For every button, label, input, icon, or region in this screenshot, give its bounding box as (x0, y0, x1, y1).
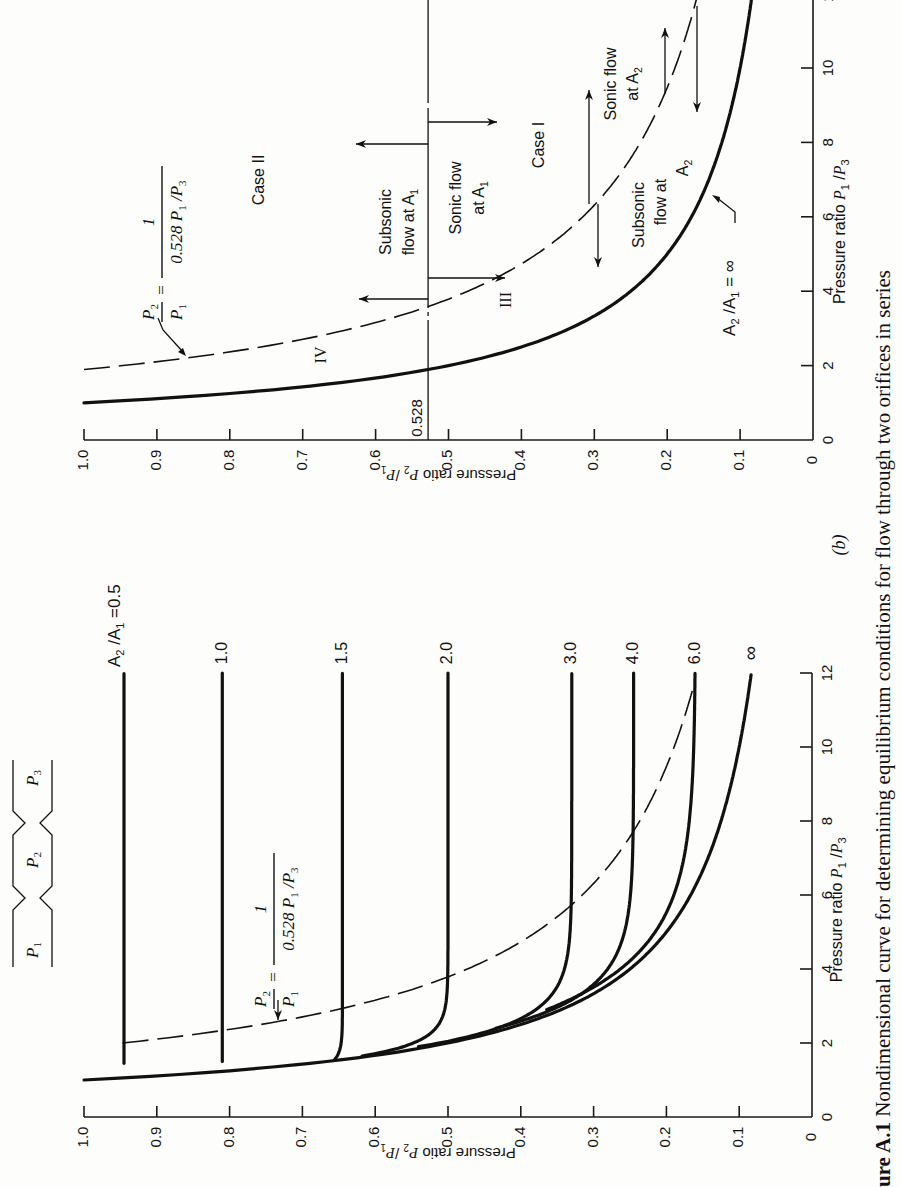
y-tick-label: 0 (803, 456, 820, 464)
x-axis-label: Pressure ratio P1 /P3 (828, 837, 848, 982)
region-label-case-i: Case I (530, 122, 547, 168)
orifice-label-p3: P3 (23, 770, 43, 787)
annotation-sonic-a1-line1: Sonic flow (447, 161, 464, 234)
figure-a1: 00.10.20.30.40.50.60.70.80.91.0024681012… (0, 0, 901, 1187)
svg-text:1: 1 (139, 218, 158, 227)
y-tick-label: 0.3 (584, 450, 601, 471)
svg-text:P2: P2 (139, 304, 160, 321)
svg-text:P2: P2 (251, 991, 272, 1008)
y-tick-label: 0.7 (292, 1127, 309, 1148)
chart-panel-a: 00.10.20.30.40.50.60.70.80.91.0024681012… (74, 584, 848, 1162)
figure-caption: ure A.1 Nondimensional curve for determi… (871, 270, 895, 1187)
orifice-diagram: P1P2P3 (13, 760, 52, 967)
y-tick-label: 0.1 (730, 450, 747, 471)
y-tick-label: 0.2 (656, 1127, 673, 1148)
annotation-subsonic-a2-line2: flow at (652, 178, 669, 225)
series-label: 1.5 (333, 642, 350, 664)
y-tick-label: 1.0 (74, 1127, 91, 1148)
series-label: 3.0 (562, 642, 579, 664)
caption-text: ure A.1 Nondimensional curve for determi… (871, 270, 895, 1187)
y-tick-label: 0.5 (438, 1127, 455, 1148)
x-tick-label: 0 (819, 436, 836, 444)
series-label: ∞ (739, 646, 761, 660)
y-tick-label: 0.6 (366, 450, 383, 471)
svg-text:=: = (264, 972, 283, 982)
y-tick-label: 1.0 (74, 450, 91, 471)
y-tick-label: 0.3 (584, 1127, 601, 1148)
y-tick-label: 0.6 (365, 1127, 382, 1148)
y-tick-label: 0 (802, 1133, 819, 1141)
curve-a2a1-3.0 (419, 674, 572, 1047)
x-tick-label: 8 (819, 138, 836, 146)
panel-label-b: (b) (829, 535, 850, 556)
curve-dashed-critical-a (123, 690, 693, 1043)
y-tick-label: 0.7 (293, 450, 310, 471)
annotation-subsonic-a1-line2: flow at A1 (400, 189, 419, 255)
curve-a2a1-∞ (84, 675, 751, 1080)
reference-label-0528: 0.528 (408, 399, 425, 437)
curve-a2a1-6.0 (547, 673, 695, 1009)
x-tick-label: 2 (818, 1039, 835, 1047)
leader-dashed-b-head (178, 348, 186, 356)
svg-text:1: 1 (251, 905, 270, 914)
svg-text:0.528 P1 /P3: 0.528 P1 /P3 (279, 867, 300, 951)
svg-text:=: = (152, 285, 171, 295)
y-tick-label: 0.8 (220, 450, 237, 471)
x-axis-label: Pressure ratio P1 /P3 (831, 159, 851, 304)
y-tick-label: 0.9 (147, 1127, 164, 1148)
chart-a-axes: 00.10.20.30.40.50.60.70.80.91.0024681012… (74, 665, 848, 1162)
x-tick-label: 2 (819, 361, 836, 369)
region-label-case-ii: Case II (250, 155, 267, 206)
label-dashed-equation-a: P2P1=10.528 P1 /P3 (251, 853, 300, 1009)
curve-a2a1-2.0 (362, 673, 448, 1056)
label-a2a1-infinity: A2 /A1 = ∞ (720, 260, 741, 336)
region-label-iii: III (497, 292, 514, 308)
annotation-subsonic-a1-line1: Subsonic (377, 189, 394, 255)
annotation-subsonic-a2-line3: A2 (674, 160, 693, 177)
annotation-subsonic-a2-line1: Subsonic (630, 182, 647, 248)
x-tick-label: 10 (819, 60, 836, 77)
y-tick-label: 0.4 (511, 1127, 528, 1148)
series-label: 2.0 (438, 642, 455, 664)
y-tick-label: 0.8 (220, 1127, 237, 1148)
series-label: 4.0 (624, 642, 641, 664)
y-tick-label: 0.2 (657, 450, 674, 471)
svg-text:P1: P1 (279, 991, 300, 1008)
orifice-label-p2: P2 (23, 852, 43, 869)
annotation-sonic-a2-line1: Sonic flow (602, 47, 619, 120)
x-tick-label: 12 (819, 0, 836, 2)
annotation-sonic-a1-line2: at A1 (470, 181, 489, 215)
region-label-iv: IV (312, 346, 329, 363)
leader-dashed-b (158, 318, 183, 352)
svg-text:0.528 P1 /P3: 0.528 P1 /P3 (167, 180, 188, 264)
series-label: 1.0 (213, 642, 230, 664)
orifice-label-p1: P1 (23, 942, 43, 959)
y-tick-label: 0.9 (147, 450, 164, 471)
x-tick-label: 8 (818, 817, 835, 825)
chart-b-axes: 00.10.20.30.40.50.60.70.80.91.0024681012… (74, 0, 851, 484)
chart-a-labels: A2 /A1 =0.51.01.52.03.04.06.0∞P2P1=10.52… (105, 584, 761, 1020)
annotation-sonic-a2-line2: at A2 (624, 67, 643, 101)
x-tick-label: 10 (818, 739, 835, 756)
curve-a2a1-1.5 (335, 673, 343, 1059)
svg-text:P1: P1 (167, 304, 188, 321)
y-tick-label: 0.1 (729, 1127, 746, 1148)
leader-infinity-head (712, 195, 720, 203)
chart-a-curves (84, 673, 751, 1080)
chart-panel-b: 00.10.20.30.40.50.60.70.80.91.0024681012… (74, 0, 851, 556)
series-label: 6.0 (686, 642, 703, 664)
x-tick-label: 12 (818, 665, 835, 682)
series-label: A2 /A1 =0.5 (105, 584, 126, 667)
x-tick-label: 0 (818, 1113, 835, 1121)
label-dashed-equation-b: P2P1=10.528 P1 /P3 (139, 166, 188, 322)
